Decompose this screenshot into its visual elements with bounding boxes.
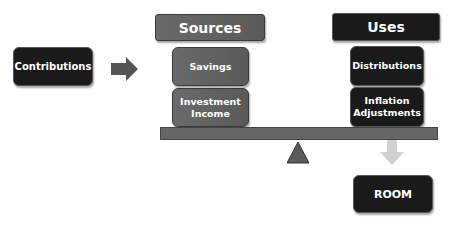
sources-header: Sources xyxy=(155,14,265,41)
balance-beam xyxy=(160,127,438,140)
room-box: ROOM xyxy=(353,175,433,213)
contributions-box: Contributions xyxy=(13,47,93,86)
savings-box: Savings xyxy=(172,47,249,86)
fulcrum-triangle-icon xyxy=(287,142,310,164)
inflation-adjustments-box: Inflation Adjustments xyxy=(350,87,424,127)
uses-header: Uses xyxy=(332,13,440,41)
investment-income-box: Investment Income xyxy=(172,88,249,127)
down-arrow-icon xyxy=(380,140,404,166)
right-arrow-icon xyxy=(111,57,139,81)
distributions-box: Distributions xyxy=(350,46,424,86)
